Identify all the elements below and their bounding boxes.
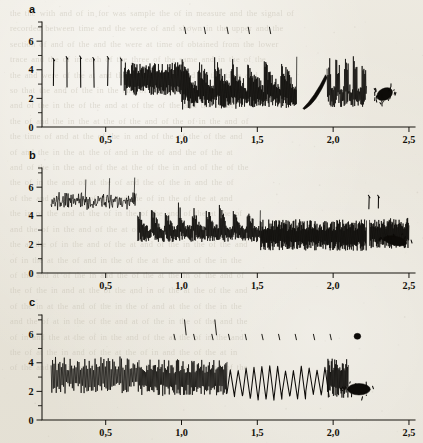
x-axis-tick-label: 2,5 (403, 427, 416, 438)
y-axis-tick-label: 4 (28, 210, 33, 221)
y-axis-tick-label: 0 (28, 122, 33, 133)
upper-tick-mark (227, 27, 228, 33)
panel-label-a: a (29, 3, 36, 15)
trace-group-c (51, 357, 373, 401)
x-axis-tick-label: 1,0 (175, 280, 188, 291)
data-trace (395, 93, 396, 96)
x-axis-tick-label: 0,5 (99, 280, 112, 291)
panel-a: a02460,51,01,52,02,5 (0, 0, 423, 150)
trace-group-a (53, 56, 396, 109)
x-axis-tick-label: 1,5 (251, 427, 264, 438)
panel-b: b02460,51,01,52,02,5 (0, 146, 423, 296)
panel-label-c: c (29, 296, 35, 308)
data-trace (260, 219, 366, 250)
y-axis-tick-label: 2 (28, 386, 33, 397)
axis-spines (42, 168, 415, 273)
upper-dark-blob (354, 333, 361, 339)
data-trace (51, 357, 139, 394)
y-axis-tick-label: 0 (28, 268, 33, 279)
data-trace (378, 195, 380, 197)
x-axis-tick-label: 1,5 (251, 134, 264, 145)
y-axis-tick-label: 6 (28, 36, 33, 47)
panel-label-b: b (29, 149, 36, 161)
upper-tick-mark (229, 334, 230, 339)
data-trace (405, 237, 406, 239)
upper-tick-mark (174, 334, 175, 339)
data-trace (53, 58, 55, 60)
y-axis-tick-label: 0 (28, 415, 33, 426)
data-trace (120, 58, 122, 60)
y-axis-tick-label: 2 (28, 93, 33, 104)
data-trace (227, 366, 329, 400)
data-trace (344, 388, 345, 390)
data-trace (376, 96, 377, 99)
upper-tall-mark (215, 320, 217, 335)
data-trace (402, 234, 403, 235)
y-axis-tick-label: 4 (28, 64, 33, 75)
data-trace (342, 387, 343, 389)
upper-tick-mark (185, 27, 186, 33)
x-axis-tick-label: 0,5 (99, 427, 112, 438)
x-axis-tick-label: 2,5 (403, 134, 416, 145)
data-trace (376, 100, 377, 102)
data-trace (391, 237, 392, 238)
trace-group-b (51, 178, 412, 251)
x-axis-tick-label: 2,5 (403, 280, 416, 291)
y-axis-tick-label: 2 (28, 239, 33, 250)
data-trace (51, 192, 136, 210)
data-trace (182, 57, 297, 109)
upper-tick-mark (262, 334, 263, 339)
x-axis-tick-label: 2,0 (327, 280, 340, 291)
data-trace (362, 397, 363, 400)
upper-tick-mark (313, 334, 314, 339)
data-trace (327, 56, 366, 107)
x-axis-tick-label: 1,5 (251, 280, 264, 291)
data-trace (80, 56, 82, 58)
data-trace (374, 89, 375, 90)
x-axis-tick-label: 1,0 (175, 427, 188, 438)
data-trace (139, 359, 227, 395)
upper-tick-mark (248, 27, 249, 33)
data-trace (380, 103, 381, 104)
x-axis-tick-label: 0,5 (99, 134, 112, 145)
y-axis-tick-label: 6 (28, 329, 33, 340)
upper-tick-mark (269, 27, 270, 33)
dark-blob (375, 85, 395, 103)
data-trace (85, 180, 86, 202)
x-axis-tick-label: 2,0 (327, 134, 340, 145)
panel-c: c02460,51,01,52,02,5 (0, 292, 423, 443)
x-axis-tick-label: 1,0 (175, 134, 188, 145)
figure-root: the the with and of in for was sample th… (0, 0, 423, 443)
x-axis-tick-label: 2,0 (327, 427, 340, 438)
data-trace (388, 98, 389, 100)
y-axis-tick-label: 6 (28, 182, 33, 193)
upper-tick-mark (204, 27, 205, 33)
upper-tick-mark (330, 334, 331, 339)
data-trace (345, 387, 346, 388)
data-trace (124, 62, 182, 95)
data-trace (138, 203, 261, 242)
data-trace (368, 195, 370, 197)
y-axis-tick-label: 4 (28, 357, 33, 368)
data-trace (327, 359, 348, 398)
data-trace (107, 57, 109, 59)
data-trace (340, 388, 341, 389)
data-trace (394, 92, 395, 94)
data-trace (411, 240, 412, 243)
upper-tick-mark (245, 334, 246, 339)
data-trace (93, 58, 95, 60)
data-trace (109, 179, 110, 202)
data-trace (382, 101, 383, 103)
data-trace (342, 390, 343, 391)
data-trace (303, 75, 327, 110)
upper-tall-mark (185, 320, 187, 335)
axis-spines (42, 22, 415, 127)
dark-blob (348, 384, 371, 395)
data-trace (373, 386, 374, 388)
data-trace (66, 57, 68, 59)
upper-tick-mark (212, 334, 213, 339)
upper-tick-mark (295, 334, 296, 339)
upper-tick-mark (194, 334, 195, 339)
upper-tick-mark (279, 334, 280, 339)
